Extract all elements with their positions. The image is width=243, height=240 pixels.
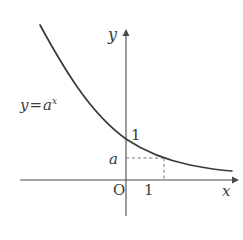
- x-tick-label-one: 1: [144, 181, 154, 199]
- y-value-a-label: a: [109, 150, 118, 168]
- function-label-base: a: [43, 96, 52, 114]
- y-tick-label-one: 1: [131, 126, 141, 144]
- function-label: y=ax: [20, 96, 57, 114]
- function-label-equals: =: [28, 96, 43, 114]
- y-axis-arrow-icon: [123, 29, 130, 36]
- origin-label: O: [113, 181, 125, 199]
- function-label-exponent: x: [52, 96, 57, 106]
- x-axis-arrow-icon: [232, 177, 239, 184]
- y-axis-label: y: [108, 25, 117, 44]
- exponential-curve: [40, 25, 232, 171]
- x-axis-label: x: [222, 182, 230, 200]
